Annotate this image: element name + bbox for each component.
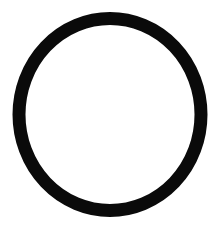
circle-ring-icon xyxy=(19,19,201,211)
circle-drawing xyxy=(0,0,221,229)
drawing-canvas xyxy=(0,0,221,229)
